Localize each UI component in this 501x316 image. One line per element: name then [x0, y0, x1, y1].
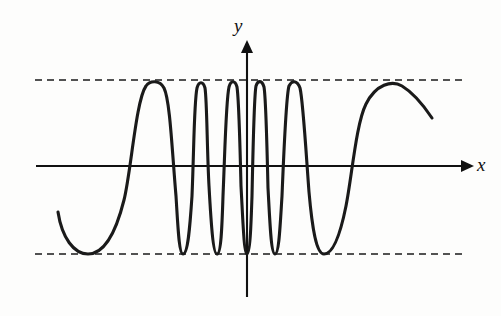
oscillating-curve — [58, 82, 432, 254]
x-axis-arrowhead — [461, 160, 474, 172]
y-axis-arrowhead — [241, 40, 253, 53]
plot-canvas — [0, 0, 501, 316]
x-axis-label: x — [477, 155, 485, 174]
y-axis-label: y — [234, 16, 242, 35]
function-graph-figure: y x — [0, 0, 501, 316]
